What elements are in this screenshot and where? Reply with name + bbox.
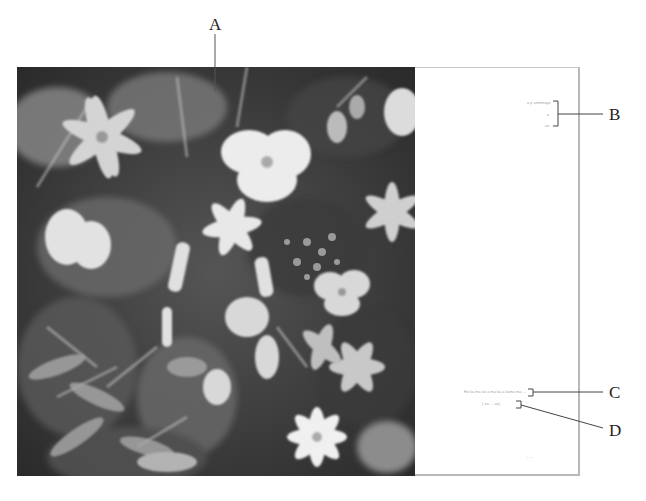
callout-leader-lines <box>0 0 646 501</box>
callout-a-label: A <box>209 16 221 33</box>
callout-c-label: C <box>609 384 620 401</box>
callout-b-label: B <box>609 106 620 123</box>
callout-d-label: D <box>609 422 621 439</box>
